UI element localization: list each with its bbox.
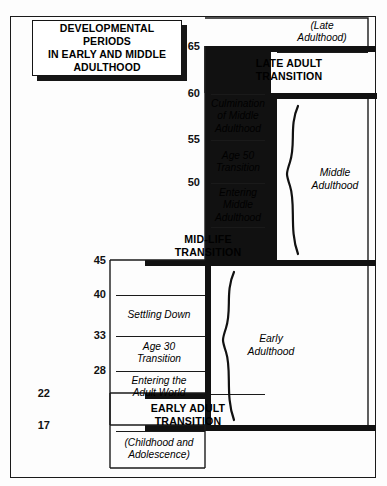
divider-age-45 [211, 227, 265, 228]
page-title: DEVELOPMENTAL PERIODS IN EARLY AND MIDDL… [33, 22, 181, 75]
age-tick-28: 28 [72, 365, 106, 376]
period-early-adult-transition: EARLY ADULT TRANSITION [112, 402, 264, 428]
age-tick-33: 33 [72, 330, 106, 341]
period-mid-life-transition: MID-LIFE TRANSITION [148, 233, 268, 259]
divider-age-40 [116, 295, 205, 296]
divider-age-17 [116, 431, 205, 432]
period-settling-down: Settling Down [112, 309, 206, 321]
divider-age-22-right [211, 394, 265, 395]
divider-age-55 [211, 140, 265, 141]
age-tick-50: 50 [166, 177, 200, 188]
divider-late-adulthood [277, 52, 368, 53]
period-late-adulthood: (Late Adulthood) [282, 20, 362, 45]
age-tick-60: 60 [166, 88, 200, 99]
period-childhood-adolescence: (Childhood and Adolescence) [112, 437, 206, 462]
era-early-adulthood: Early Adulthood [236, 333, 306, 358]
age-tick-45: 45 [72, 255, 106, 266]
period-age-30-transition: Age 30 Transition [112, 341, 206, 366]
period-late-adult-transition: LATE ADULT TRANSITION [211, 57, 367, 83]
divider-age-33 [116, 336, 205, 337]
age-tick-22: 22 [16, 388, 50, 399]
period-age-50-transition: Age 50 Transition [205, 150, 271, 175]
period-culmination-middle-adulthood: Culmination of Middle Adulthood [205, 98, 271, 135]
age-tick-65: 65 [166, 41, 200, 52]
divider-age-60 [211, 94, 265, 95]
figure-canvas: DEVELOPMENTAL PERIODS IN EARLY AND MIDDL… [0, 0, 387, 486]
age-tick-55: 55 [166, 134, 200, 145]
divider-age-28 [116, 371, 205, 372]
age-tick-40: 40 [72, 289, 106, 300]
age-tick-17: 17 [16, 420, 50, 431]
period-entering-middle-adulthood: Entering Middle Adulthood [205, 187, 271, 224]
period-entering-adult-world: Entering the Adult World [112, 375, 206, 400]
title-box: DEVELOPMENTAL PERIODS IN EARLY AND MIDDL… [32, 20, 182, 76]
divider-age-50 [211, 183, 265, 184]
era-middle-adulthood: Middle Adulthood [300, 167, 370, 192]
